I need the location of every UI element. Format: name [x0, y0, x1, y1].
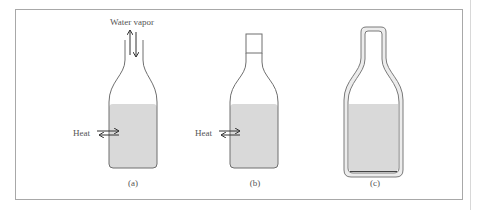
panel-c: (c)	[344, 27, 403, 188]
stopper	[246, 34, 262, 53]
liquid-b	[230, 104, 278, 168]
heat-label-a: Heat	[73, 128, 90, 138]
heat-label-b: Heat	[195, 128, 212, 138]
water-vapor-label: Water vapor	[110, 17, 154, 27]
bottle-diagram: Water vapor Heat (a) Heat (b) (c)	[0, 0, 478, 210]
panel-b: Heat (b)	[195, 34, 278, 188]
liquid-a	[109, 104, 157, 168]
caption-b: (b)	[250, 178, 261, 188]
panel-a: Water vapor Heat (a)	[73, 17, 157, 188]
caption-a: (a)	[128, 178, 138, 188]
caption-c: (c)	[370, 178, 380, 188]
liquid-c	[349, 104, 398, 172]
